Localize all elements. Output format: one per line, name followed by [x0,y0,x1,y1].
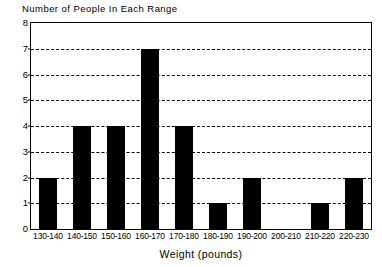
bar [243,178,261,230]
bar-slot [269,23,303,229]
y-tick-label: 8 [23,18,28,28]
bar [107,126,125,229]
plot-area: 012345678 130-140140-150150-160160-17017… [30,22,372,230]
bar-slot [303,23,337,229]
bar [73,126,91,229]
x-tick-label: 200-210 [271,232,301,241]
y-tick-label: 0 [23,224,28,234]
x-tick-label: 180-190 [203,232,233,241]
x-tick-label: 150-160 [101,232,131,241]
bar-slot [133,23,167,229]
bar [141,49,159,229]
chart-title: Number of People In Each Range [22,3,178,14]
bar-slot [99,23,133,229]
bar [311,203,329,229]
x-tick-label: 130-140 [33,232,63,241]
bar-slot [167,23,201,229]
bar [345,178,363,230]
histogram-chart: Number of People In Each Range 012345678… [0,0,382,267]
bars-group [31,23,371,229]
bar [209,203,227,229]
bar-slot [31,23,65,229]
bar-slot [337,23,371,229]
bar-slot [201,23,235,229]
bar-slot [65,23,99,229]
x-tick-label: 220-230 [339,232,369,241]
bar-slot [235,23,269,229]
bar [175,126,193,229]
bar [39,178,57,230]
x-tick-label: 160-170 [135,232,165,241]
x-tick-label: 140-150 [67,232,97,241]
x-axis-title: Weight (pounds) [30,248,372,260]
x-tick-label: 210-220 [305,232,335,241]
x-tick-label: 170-180 [169,232,199,241]
x-tick-label: 190-200 [237,232,267,241]
